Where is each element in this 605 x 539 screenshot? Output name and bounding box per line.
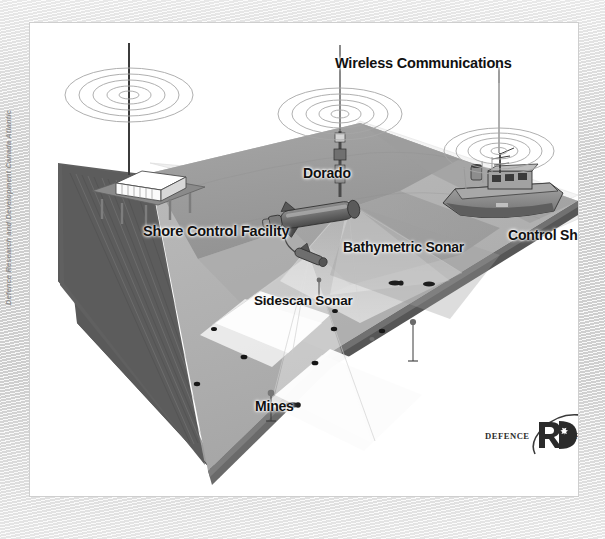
label-control-ship: Control Ship [508, 227, 579, 243]
figure-card: Wireless Communications Dorado Shore Con… [29, 22, 579, 497]
illustration-stage: Wireless Communications Dorado Shore Con… [30, 23, 578, 496]
logo-rd-mark [529, 412, 579, 458]
label-shore-control-facility: Shore Control Facility [143, 223, 289, 239]
label-sidescan-sonar: Sidescan Sonar [254, 293, 353, 308]
logo-word-defence-en: DEFENCE [485, 431, 530, 441]
label-mines: Mines [255, 398, 294, 414]
vertical-credit-text: Defence Research and Development Canada … [4, 110, 13, 305]
moored-mine [408, 319, 418, 361]
drdc-logo: DEFENCE DÉFENSE [485, 412, 579, 458]
label-wireless-communications: Wireless Communications [335, 55, 512, 71]
label-bathymetric-sonar: Bathymetric Sonar [343, 239, 464, 255]
label-dorado: Dorado [303, 165, 351, 181]
